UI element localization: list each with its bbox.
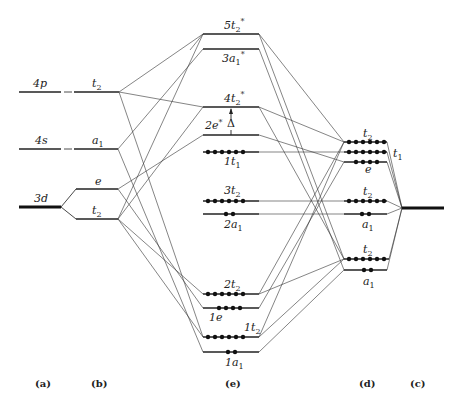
label-b-e: e <box>95 175 102 188</box>
connectors-ligand <box>259 34 344 352</box>
label-1t1: 1t1 <box>224 155 241 170</box>
label-1a1: 1a1 <box>225 356 244 371</box>
column-e-molecular-orbitals: 5t2* 3a1* 4t2* Δ 2e* 1t1 3t2 <box>190 17 261 371</box>
panel-labels: (a) (b) (e) (d) (c) <box>35 378 426 389</box>
panel-label-c: (c) <box>410 378 426 389</box>
label-2t2: 2t2 <box>223 278 241 293</box>
label-3a1-star: 3a1* <box>222 50 245 67</box>
mo-diagram: 4p 4s 3d t2 a1 e t2 <box>0 0 463 411</box>
label-4p: 4p <box>32 77 47 90</box>
split-line-e <box>61 189 76 207</box>
label-1e: 1e <box>209 311 223 324</box>
label-2a1: 2a1 <box>223 218 243 233</box>
label-4t2-star: 4t2* <box>223 90 245 107</box>
panel-label-a: (a) <box>35 378 51 389</box>
column-a-metal-orbitals: 4p 4s 3d <box>19 77 76 219</box>
label-5t2-star: 5t2* <box>224 17 245 34</box>
label-1t2: 1t2 <box>244 321 261 336</box>
label-d-e: e <box>365 163 372 176</box>
delta-label: Δ <box>227 117 235 130</box>
column-d-ligand-symmetry: t2 t1 e t2 <box>344 127 403 290</box>
label-d-t1: t1 <box>393 147 403 162</box>
label-d-a1-b: a1 <box>362 218 374 233</box>
label-b-t2-upper: t2 <box>92 77 102 92</box>
label-d-t2-a: t2 <box>363 127 373 142</box>
label-2e-star: 2e* <box>204 118 223 132</box>
label-b-a1: a1 <box>92 134 104 149</box>
label-4s: 4s <box>34 134 48 147</box>
label-d-t2-b: t2 <box>363 185 373 200</box>
label-d-t2-c: t2 <box>363 243 373 258</box>
panel-label-b: (b) <box>91 378 107 389</box>
panel-label-e: (e) <box>225 378 241 389</box>
arrow-up-icon <box>229 108 233 114</box>
column-b-metal-symmetry: t2 a1 e t2 <box>74 77 119 219</box>
label-b-t2-lower: t2 <box>92 204 102 219</box>
label-3t2: 3t2 <box>224 184 241 199</box>
label-3d: 3d <box>34 192 48 205</box>
split-line-t2 <box>61 207 76 219</box>
connectors-metal <box>118 34 203 352</box>
label-d-a1-c: a1 <box>363 275 375 290</box>
panel-label-d: (d) <box>359 378 375 389</box>
